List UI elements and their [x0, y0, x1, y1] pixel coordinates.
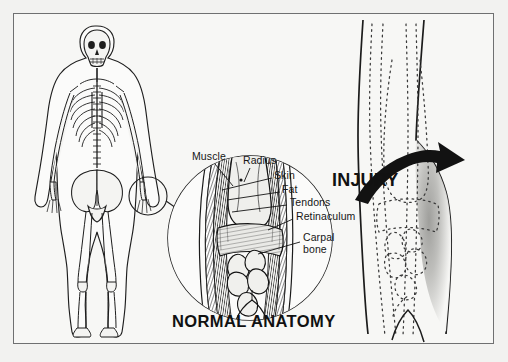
- illustration-artwork: [0, 0, 508, 362]
- callout-label-tendons: Tendons: [290, 197, 330, 208]
- caption-normal-anatomy: NORMAL ANATOMY: [172, 312, 336, 331]
- callout-label-retinaculum: Retinaculum: [296, 211, 355, 222]
- injury-swelling-shading: [415, 140, 451, 332]
- callout-label-skin: Skin: [274, 170, 295, 181]
- illustration-canvas: Muscle Radius Skin Fat Tendons Retinacul…: [0, 0, 508, 362]
- callout-label-carpal-bone-second-line: bone: [303, 244, 327, 255]
- callout-label-muscle: Muscle: [192, 151, 226, 162]
- callout-label-fat: Fat: [282, 184, 297, 195]
- callout-label-carpal: Carpal: [303, 232, 335, 243]
- skeleton-figure: [35, 26, 159, 337]
- injury-lower-hand: [392, 310, 424, 342]
- retinaculum-band: [217, 224, 283, 256]
- callout-label-radius: Radius: [243, 155, 276, 166]
- caption-injury: INJURY: [332, 170, 399, 191]
